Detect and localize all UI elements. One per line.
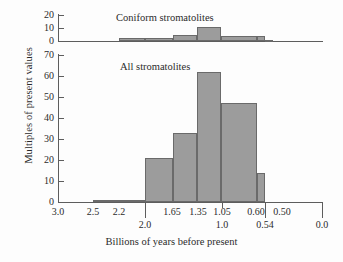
xticklabel-lower-0.0: 0.0 bbox=[308, 220, 336, 230]
top-panel-baseline bbox=[58, 41, 323, 42]
bar-top-2.2-2.0 bbox=[119, 38, 145, 41]
bottom-panel-yticklabel-60: 60 bbox=[28, 71, 54, 81]
top-panel-yticklabel-20: 20 bbox=[28, 10, 54, 20]
bar-bottom-1.65-1.35 bbox=[173, 133, 197, 202]
bottom-panel-ytick-60 bbox=[59, 76, 64, 77]
bottom-panel-yticklabel-30: 30 bbox=[28, 134, 54, 144]
bar-top-1.05-0.60 bbox=[221, 36, 257, 41]
bottom-panel-yticklabel-40: 40 bbox=[28, 113, 54, 123]
xdivider-2.0 bbox=[145, 202, 146, 218]
bottom-panel-yticklabel-50: 50 bbox=[28, 92, 54, 102]
xticklabel-2.5: 2.5 bbox=[79, 207, 107, 217]
bottom-panel-yticklabel-20: 20 bbox=[28, 155, 54, 165]
bar-bottom-0.60-0.54 bbox=[257, 173, 265, 202]
bottom-panel-ytick-30 bbox=[59, 139, 64, 140]
xticklabel-1.05: 1.05 bbox=[206, 207, 238, 217]
bar-top-0.54-0.50 bbox=[265, 40, 273, 42]
xticklabel-2.2: 2.2 bbox=[105, 207, 133, 217]
bottom-panel-yticklabel-70: 70 bbox=[28, 50, 54, 60]
bar-top-1.35-1.05 bbox=[197, 27, 221, 41]
xticklabel-3.0: 3.0 bbox=[44, 207, 72, 217]
bar-bottom-1.05-0.60 bbox=[221, 103, 257, 202]
bar-bottom-2.0-1.65 bbox=[145, 158, 173, 202]
top-panel-title: Coniform stromatolites bbox=[116, 12, 214, 23]
xticklabel-lower-2.0: 2.0 bbox=[131, 220, 159, 230]
top-panel-ytick-10 bbox=[59, 28, 64, 29]
xdivider-0.0 bbox=[322, 202, 323, 218]
bar-top-0.60-0.54 bbox=[257, 36, 265, 41]
bar-top-1.65-1.35 bbox=[173, 35, 197, 42]
bottom-panel-ytick-50 bbox=[59, 97, 64, 98]
top-panel-yticklabel-10: 10 bbox=[28, 23, 54, 33]
bottom-panel-ytick-40 bbox=[59, 118, 64, 119]
bottom-panel-x-axis bbox=[58, 202, 323, 203]
x-axis-title: Billions of years before present bbox=[0, 236, 343, 247]
xticklabel-lower-0.54: 0.54 bbox=[249, 220, 281, 230]
bar-bottom-1.35-1.05 bbox=[197, 72, 221, 202]
xticklabel-lower-1.0: 1.0 bbox=[208, 220, 236, 230]
bottom-panel-yticklabel-10: 10 bbox=[28, 176, 54, 186]
bottom-panel-title: All stromatolites bbox=[120, 61, 190, 72]
figure-canvas: Multiples of present values 20 10 0 Coni… bbox=[0, 0, 343, 262]
bottom-panel-ytick-70 bbox=[59, 55, 64, 56]
bar-top-2.0-1.65 bbox=[145, 38, 173, 41]
top-panel-yticklabel-0: 0 bbox=[28, 36, 54, 46]
bottom-panel-yticklabel-0: 0 bbox=[28, 197, 54, 207]
xticklabel-0.50: 0.50 bbox=[266, 207, 298, 217]
bottom-panel-ytick-20 bbox=[59, 160, 64, 161]
bottom-panel-ytick-10 bbox=[59, 181, 64, 182]
top-panel-ytick-20 bbox=[59, 15, 64, 16]
